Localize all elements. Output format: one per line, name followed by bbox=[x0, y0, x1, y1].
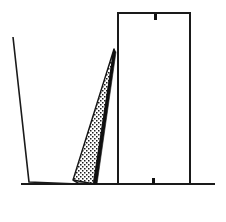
bottom-center-tick-icon bbox=[152, 178, 155, 184]
figure-canvas: Leaning slab and upright block, vintage … bbox=[0, 0, 226, 222]
top-center-tick-icon bbox=[154, 14, 157, 20]
canvas-background bbox=[0, 0, 226, 222]
diagram-svg bbox=[0, 0, 226, 222]
